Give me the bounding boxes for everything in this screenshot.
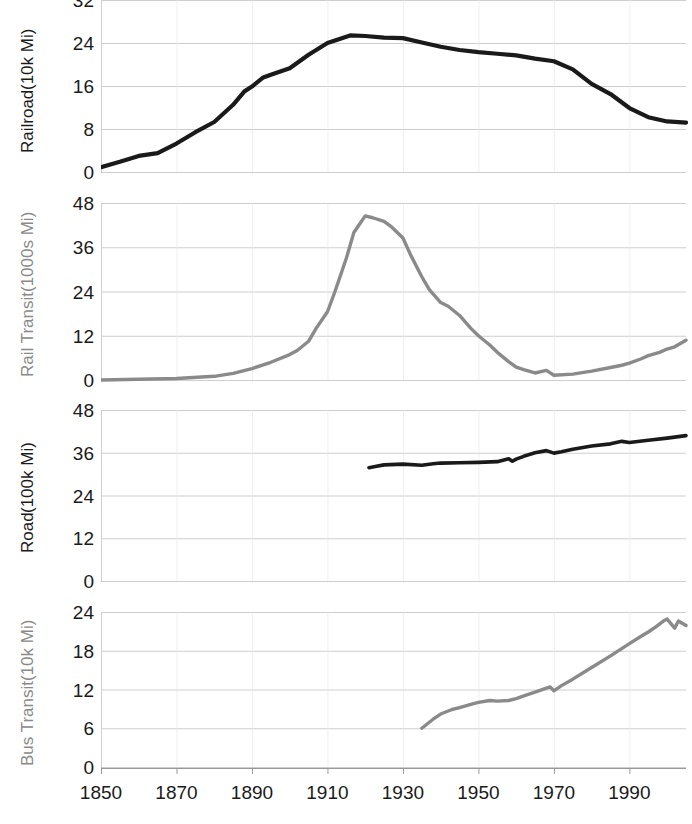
plot-svg bbox=[101, 612, 688, 769]
x-axis-area bbox=[101, 768, 688, 780]
y-tick-label: 12 bbox=[48, 681, 94, 700]
y-tick-label: 12 bbox=[48, 327, 94, 346]
x-tick-label: 1990 bbox=[594, 782, 664, 804]
x-tick-label: 1970 bbox=[519, 782, 589, 804]
plot-svg bbox=[101, 0, 688, 174]
y-axis-title-line1: Bus Transit bbox=[18, 681, 38, 766]
plot-area-road bbox=[101, 410, 688, 583]
y-axis-title-line1: Rail Transit bbox=[18, 292, 38, 377]
y-axis-title-line1: Railroad bbox=[18, 90, 38, 153]
y-tick-label: 0 bbox=[48, 163, 94, 182]
y-tick-label: 36 bbox=[48, 238, 94, 257]
y-tick-label: 0 bbox=[48, 371, 94, 390]
y-axis-title-line1: Road bbox=[18, 513, 38, 554]
y-axis-title-railroad: Railroad (10k Mi) bbox=[2, 0, 54, 182]
y-tick-label: 18 bbox=[48, 642, 94, 661]
y-tick-label: 0 bbox=[48, 758, 94, 777]
y-tick-label: 24 bbox=[48, 487, 94, 506]
plot-area-railroad bbox=[101, 0, 688, 174]
x-tick-label: 1930 bbox=[368, 782, 438, 804]
y-tick-label: 32 bbox=[48, 0, 94, 10]
y-tick-label: 48 bbox=[48, 194, 94, 213]
y-tick-label: 24 bbox=[48, 603, 94, 622]
data-series-line bbox=[369, 436, 686, 468]
y-tick-label: 8 bbox=[48, 120, 94, 139]
panel-rail-transit: Rail Transit (1000s Mi) 012243648 bbox=[0, 203, 692, 388]
plot-area-bus-transit bbox=[101, 612, 688, 769]
y-tick-label: 12 bbox=[48, 529, 94, 548]
y-axis-title-road: Road (100k Mi) bbox=[2, 410, 54, 585]
x-tick-label: 1870 bbox=[141, 782, 211, 804]
y-tick-label: 36 bbox=[48, 444, 94, 463]
plot-svg bbox=[101, 203, 688, 382]
y-tick-label: 6 bbox=[48, 719, 94, 738]
y-tick-label: 16 bbox=[48, 77, 94, 96]
y-tick-label: 0 bbox=[48, 572, 94, 591]
plot-area-rail-transit bbox=[101, 203, 688, 382]
panel-road: Road (100k Mi) 012243648 bbox=[0, 410, 692, 588]
y-tick-label: 48 bbox=[48, 401, 94, 420]
y-axis-title-line2: (10k Mi) bbox=[18, 620, 38, 681]
plot-svg bbox=[101, 410, 688, 583]
stacked-line-chart-figure: Railroad (10k Mi) 08162432 Rail Transit … bbox=[0, 0, 692, 824]
y-tick-label: 24 bbox=[48, 283, 94, 302]
x-tick-label: 1950 bbox=[443, 782, 513, 804]
panel-bus-transit: Bus Transit (10k Mi) 06121824 bbox=[0, 612, 692, 777]
y-axis-title-line2: (1000s Mi) bbox=[18, 211, 38, 291]
y-axis-title-line2: (100k Mi) bbox=[18, 442, 38, 513]
x-tick-label: 1890 bbox=[217, 782, 287, 804]
x-axis-tick-labels: 18501870189019101930195019701990 bbox=[0, 782, 692, 810]
y-axis-title-bus-transit: Bus Transit (10k Mi) bbox=[2, 612, 54, 774]
x-tick-label: 1910 bbox=[292, 782, 362, 804]
data-series-line bbox=[422, 619, 686, 728]
x-tick-label: 1850 bbox=[66, 782, 136, 804]
x-axis-svg bbox=[101, 768, 688, 780]
y-tick-label: 24 bbox=[48, 34, 94, 53]
data-series-line bbox=[101, 216, 686, 380]
panel-railroad: Railroad (10k Mi) 08162432 bbox=[0, 0, 692, 190]
y-axis-title-line2: (10k Mi) bbox=[18, 29, 38, 90]
data-series-line bbox=[101, 35, 686, 167]
y-axis-title-rail-transit: Rail Transit (1000s Mi) bbox=[2, 203, 54, 385]
